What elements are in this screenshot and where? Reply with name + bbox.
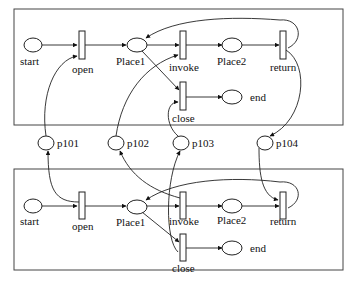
- label-bottom-return: return: [270, 215, 297, 227]
- label-bottom-close: close: [172, 262, 195, 274]
- top-transition-close[interactable]: [180, 82, 186, 110]
- bottom-place-end[interactable]: [222, 241, 242, 255]
- arc-p104-bottom-return: [259, 148, 278, 200]
- petri-net-diagram: start open Place1 invoke Place2 return c…: [0, 0, 352, 285]
- label-top-invoke: invoke: [169, 61, 199, 73]
- label-p103: p103: [192, 137, 215, 149]
- label-bottom-open: open: [72, 220, 94, 232]
- arc-bottom-open-p101: [48, 151, 79, 202]
- label-p102: p102: [127, 137, 149, 149]
- label-top-open: open: [72, 63, 94, 75]
- label-top-close: close: [172, 112, 195, 124]
- bottom-place-start[interactable]: [24, 199, 42, 213]
- arc-bottom-close-p103: [168, 151, 180, 252]
- label-top-place2: Place2: [217, 55, 246, 67]
- label-p104: p104: [276, 137, 299, 149]
- top-net: start open Place1 invoke Place2 return c…: [20, 18, 298, 124]
- place-p103[interactable]: [173, 136, 189, 150]
- bottom-place-place2[interactable]: [222, 199, 242, 213]
- place-p101[interactable]: [38, 136, 54, 150]
- label-bottom-place1: Place1: [116, 216, 145, 228]
- top-place-end[interactable]: [222, 90, 242, 104]
- top-transition-return[interactable]: [280, 31, 286, 59]
- label-top-place1: Place1: [116, 55, 145, 67]
- label-bottom-end: end: [250, 242, 266, 254]
- bottom-transition-close[interactable]: [180, 234, 186, 261]
- top-transition-invoke[interactable]: [180, 31, 186, 59]
- label-bottom-start: start: [20, 215, 39, 227]
- label-top-return: return: [270, 61, 297, 73]
- place-p104[interactable]: [257, 136, 273, 150]
- bottom-transition-open[interactable]: [79, 192, 85, 219]
- top-transition-open[interactable]: [79, 31, 85, 59]
- place-p102[interactable]: [108, 136, 124, 150]
- top-place-place1[interactable]: [127, 38, 147, 52]
- top-place-place2[interactable]: [222, 38, 242, 52]
- arc-bottom-invoke-p102: [120, 151, 180, 198]
- interface-places: p101 p102 p103 p104: [38, 136, 299, 150]
- label-bottom-place2: Place2: [217, 214, 246, 226]
- bottom-net: start open Place1 invoke Place2 return c…: [20, 179, 298, 274]
- label-top-end: end: [250, 91, 266, 103]
- bottom-place-place1[interactable]: [127, 200, 147, 214]
- label-top-start: start: [20, 55, 39, 67]
- label-bottom-invoke: invoke: [169, 215, 199, 227]
- top-place-start[interactable]: [24, 38, 42, 52]
- label-p101: p101: [57, 137, 79, 149]
